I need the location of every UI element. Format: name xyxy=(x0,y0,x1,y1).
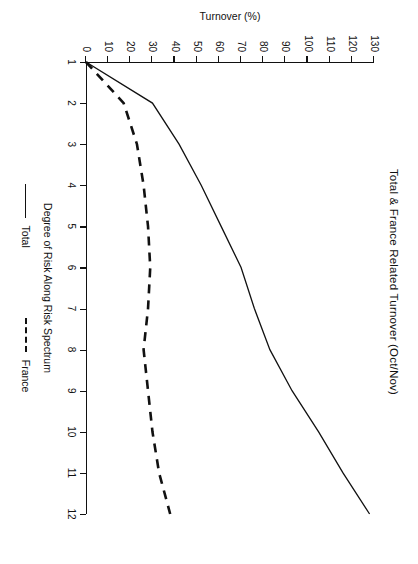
x-axis-tick-label: 3 xyxy=(66,141,77,147)
x-axis-tick xyxy=(80,350,86,351)
y-axis-tick xyxy=(306,56,307,62)
y-axis-tick-label: 80 xyxy=(258,41,269,52)
x-axis-tick-label: 1 xyxy=(66,59,77,65)
y-axis-title-label: Turnover (%) xyxy=(200,10,261,22)
x-axis-tick-label: 7 xyxy=(66,306,77,312)
series-line-total xyxy=(86,62,370,514)
solid-line-icon xyxy=(26,184,27,218)
y-axis-tick-label: 20 xyxy=(125,41,136,52)
y-axis-tick-label: 60 xyxy=(213,41,224,52)
x-axis-tick xyxy=(80,226,86,227)
rotated-figure-container: Total & France Related Turnover (Oct/Nov… xyxy=(0,0,418,564)
x-axis-title: Degree of Risk Along Risk Spectrum xyxy=(42,62,54,514)
x-axis-tick xyxy=(80,103,86,104)
y-axis-tick xyxy=(129,56,130,62)
y-axis-tick-label: 30 xyxy=(147,41,158,52)
y-axis-tick xyxy=(351,56,352,62)
x-axis-tick-label: 11 xyxy=(66,468,77,478)
series-canvas xyxy=(86,62,374,514)
x-axis-tick xyxy=(80,309,86,310)
series-line-france xyxy=(86,62,170,514)
chart-legend: Total France xyxy=(20,62,32,514)
plot-area: 0102030405060708090100110120130123456789… xyxy=(86,62,374,514)
x-axis-tick-label: 5 xyxy=(66,224,77,230)
x-axis-tick xyxy=(80,267,86,268)
y-axis-tick-label: 0 xyxy=(81,46,92,52)
x-axis-tick-label: 12 xyxy=(66,508,77,519)
y-axis-title: Turnover (%) xyxy=(86,8,374,24)
legend-label-total: Total xyxy=(20,226,32,248)
y-axis-tick xyxy=(284,56,285,62)
y-axis-tick-label: 40 xyxy=(169,41,180,52)
legend-item-france: France xyxy=(20,318,32,393)
y-axis-tick xyxy=(173,56,174,62)
y-axis-tick-label: 120 xyxy=(346,35,357,52)
x-axis-tick xyxy=(80,473,86,474)
y-axis-tick-label: 70 xyxy=(236,41,247,52)
y-axis-tick xyxy=(151,56,152,62)
x-axis-tick xyxy=(80,144,86,145)
y-axis-tick-label: 130 xyxy=(369,35,380,52)
x-axis-tick-label: 9 xyxy=(66,388,77,394)
dashed-line-icon xyxy=(25,318,27,352)
y-axis-tick xyxy=(218,56,219,62)
x-axis-tick xyxy=(80,391,86,392)
y-axis-tick xyxy=(107,56,108,62)
x-axis-tick xyxy=(80,185,86,186)
y-axis-tick xyxy=(262,56,263,62)
x-axis-tick xyxy=(80,62,86,63)
x-axis-tick xyxy=(80,432,86,433)
y-axis-tick xyxy=(196,56,197,62)
x-axis-tick-label: 4 xyxy=(66,182,77,188)
y-axis-tick-label: 100 xyxy=(302,35,313,52)
y-axis-tick xyxy=(240,56,241,62)
y-axis-tick xyxy=(373,56,374,62)
x-axis-tick-label: 10 xyxy=(66,426,77,437)
y-axis-tick-label: 10 xyxy=(103,41,114,52)
y-axis-tick-label: 90 xyxy=(280,41,291,52)
y-axis-tick-label: 110 xyxy=(324,36,335,52)
x-axis-tick xyxy=(80,514,86,515)
y-axis-tick xyxy=(329,56,330,62)
x-axis-tick-label: 6 xyxy=(66,265,77,271)
y-axis-tick-label: 50 xyxy=(191,41,202,52)
chart-figure: Total & France Related Turnover (Oct/Nov… xyxy=(0,0,418,564)
x-axis-tick-label: 2 xyxy=(66,100,77,106)
legend-label-france: France xyxy=(20,360,32,393)
x-axis-tick-label: 8 xyxy=(66,347,77,353)
chart-title: Total & France Related Turnover (Oct/Nov… xyxy=(388,0,400,564)
legend-item-total: Total xyxy=(20,184,32,248)
